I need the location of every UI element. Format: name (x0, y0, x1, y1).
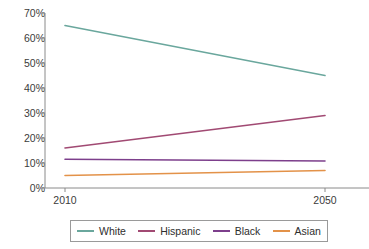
legend-swatch-icon (77, 230, 94, 232)
plot-area: 70% 60% 50% 40% 30% 20% 10% 0% 2010 2050 (0, 0, 369, 210)
legend-label: Black (235, 226, 261, 237)
legend-label: Asian (295, 226, 321, 237)
series-line-hispanic (65, 116, 325, 149)
legend-swatch-icon (138, 230, 155, 232)
line-chart: 70% 60% 50% 40% 30% 20% 10% 0% 2010 2050… (0, 0, 369, 249)
plot-svg (0, 0, 369, 210)
legend-swatch-icon (213, 230, 230, 232)
x-tick-label: 2010 (45, 194, 85, 206)
legend-label: Hispanic (160, 226, 200, 237)
legend-item-asian[interactable]: Asian (271, 226, 323, 237)
legend-item-white[interactable]: White (75, 226, 128, 237)
legend-item-hispanic[interactable]: Hispanic (136, 226, 202, 237)
legend-item-black[interactable]: Black (211, 226, 263, 237)
chart-legend: White Hispanic Black Asian (70, 220, 328, 242)
series-line-white (65, 26, 325, 76)
series-line-asian (65, 171, 325, 176)
legend-swatch-icon (273, 230, 290, 232)
x-tick-label: 2050 (305, 194, 345, 206)
legend-label: White (99, 226, 126, 237)
series-line-black (65, 159, 325, 161)
